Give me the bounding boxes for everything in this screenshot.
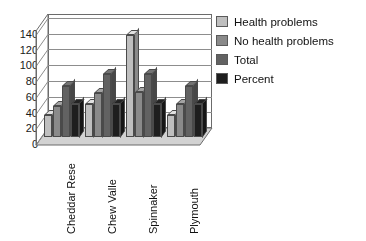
bar-1-1: [44, 115, 52, 137]
legend-item-4: Percent: [216, 69, 366, 88]
bar-2-1: [85, 104, 93, 138]
legend-item-2: No health problems: [216, 31, 366, 50]
bar-1-2: [53, 106, 61, 137]
bar-4-1: [167, 115, 175, 137]
bar-4-4: [194, 104, 202, 138]
bar-4-3: [185, 86, 193, 137]
bar-3-2: [135, 92, 143, 138]
bar-2-3: [103, 74, 111, 137]
bar-1-3: [62, 86, 70, 137]
legend-item-1: Health problems: [216, 12, 366, 31]
bar-chart: 140120100806040200 Cheddar ReseChew Vall…: [0, 0, 366, 241]
chart-legend: Health problemsNo health problemsTotalPe…: [216, 12, 366, 88]
bar-1-4: [71, 104, 79, 138]
legend-label-1: Health problems: [234, 16, 318, 28]
legend-swatch-icon-2: [216, 35, 228, 46]
bar-3-1: [126, 35, 134, 137]
bar-2-4: [112, 104, 120, 138]
bar-4-2: [176, 104, 184, 137]
legend-swatch-icon-4: [216, 73, 228, 84]
legend-label-4: Percent: [234, 73, 274, 85]
bar-3-3: [144, 74, 152, 137]
bar-2-2: [94, 93, 102, 138]
legend-swatch-icon-1: [216, 16, 228, 27]
legend-item-3: Total: [216, 50, 366, 69]
legend-label-3: Total: [234, 54, 258, 66]
x-axis-label-2: Chew Valle: [107, 179, 118, 234]
x-axis-label-1: Cheddar Rese: [66, 163, 77, 234]
legend-swatch-icon-3: [216, 54, 228, 65]
legend-label-2: No health problems: [234, 35, 334, 47]
x-axis-label-4: Plymouth: [189, 188, 200, 234]
x-axis-label-3: Spinnaker: [148, 184, 159, 234]
bar-3-4: [153, 104, 161, 138]
